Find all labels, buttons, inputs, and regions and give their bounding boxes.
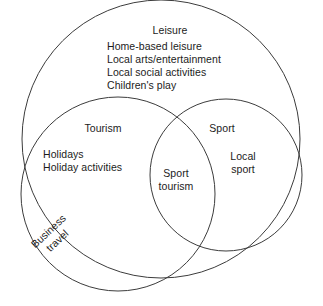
leisure-region-items: Home-based leisure Local arts/entertainm… [107,40,221,92]
sport-region-title: Sport [209,122,234,135]
sport-tourism-overlap-label: Sport tourism [159,167,194,193]
leisure-region-title: Leisure [153,24,188,37]
tourism-region-title: Tourism [84,122,121,135]
tourism-region-items: Holidays Holiday activities [43,148,122,174]
sport-region-items: Local sport [230,150,255,176]
venn-diagram: Leisure Home-based leisure Local arts/en… [0,0,323,306]
